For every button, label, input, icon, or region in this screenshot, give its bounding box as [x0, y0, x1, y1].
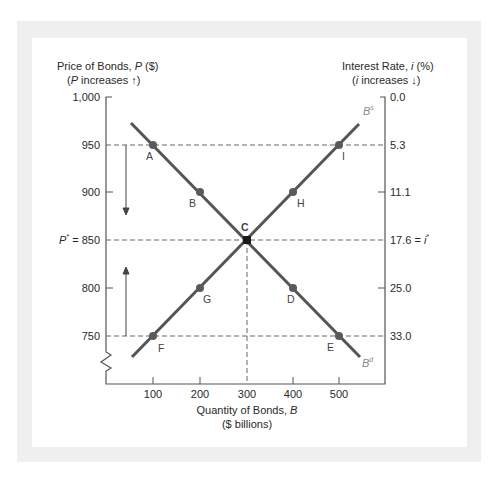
- tick-label-33.0: 33.0: [390, 330, 411, 342]
- label-c: C: [241, 221, 249, 233]
- x-ticks: [153, 377, 339, 384]
- label-e: E: [327, 341, 334, 353]
- point-labels: A B C D E F G H I: [146, 150, 345, 354]
- right-axis-title: Interest Rate, i (%): [342, 60, 434, 72]
- tick-label-400: 400: [284, 388, 302, 400]
- tick-label-750: 750: [82, 330, 100, 342]
- right-axis-subtitle: (i increases ↓): [352, 74, 420, 86]
- point-i: [335, 141, 343, 149]
- label-a: A: [146, 150, 153, 162]
- label-f: F: [158, 342, 164, 354]
- label-h: H: [297, 197, 305, 209]
- point-a: [149, 141, 157, 149]
- tick-label-300: 300: [238, 388, 256, 400]
- label-b: B: [189, 197, 196, 209]
- label-d: D: [287, 293, 295, 305]
- right-tick-labels: 0.0 5.3 11.1 17.6 = i* 25.0 33.0: [390, 91, 429, 342]
- bond-market-chart: Price of Bonds, P ($) (P increases ↑) In…: [0, 0, 499, 482]
- tick-label-0.0: 0.0: [390, 91, 405, 103]
- left-axis-title: Price of Bonds, P ($): [57, 60, 159, 72]
- down-arrow-head: [123, 208, 129, 215]
- tick-label-11.1: 11.1: [390, 186, 411, 198]
- tick-label-5.3: 5.3: [390, 139, 405, 151]
- tick-label-900: 900: [82, 186, 100, 198]
- point-f: [149, 332, 157, 340]
- point-d: [289, 284, 297, 292]
- supply-curve-label: Bs: [363, 104, 374, 117]
- left-tick-labels: 1,000 950 900 P* = 850 800 750: [59, 91, 100, 342]
- point-e: [335, 332, 343, 340]
- point-h: [289, 188, 297, 196]
- tick-label-1000: 1,000: [72, 91, 100, 103]
- tick-label-25.0: 25.0: [390, 282, 411, 294]
- label-i: I: [342, 150, 345, 162]
- label-g: G: [203, 293, 211, 305]
- x-axis-title: Quantity of Bonds, B: [197, 404, 298, 416]
- tick-label-500: 500: [330, 388, 348, 400]
- point-g: [196, 284, 204, 292]
- up-arrow-head: [123, 267, 129, 274]
- dashed-guides: [106, 145, 385, 384]
- tick-label-800: 800: [82, 282, 100, 294]
- point-b: [196, 188, 204, 196]
- tick-label-i-star: 17.6 = i*: [390, 233, 429, 246]
- tick-label-p-star: P* = 850: [59, 233, 100, 246]
- left-axis-subtitle: (P increases ↑): [67, 74, 140, 86]
- tick-label-200: 200: [191, 388, 209, 400]
- tick-label-950: 950: [82, 139, 100, 151]
- tick-label-100: 100: [144, 388, 162, 400]
- x-tick-labels: 100 200 300 400 500: [144, 388, 348, 400]
- demand-curve-label: Bd: [362, 356, 374, 369]
- x-axis-subtitle: ($ billions): [222, 418, 272, 430]
- point-c-equilibrium: [243, 236, 251, 244]
